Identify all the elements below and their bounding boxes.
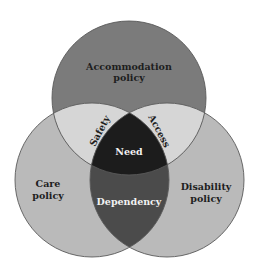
dependency-label: Dependency [97,196,162,207]
disability-label-line2: policy [190,193,222,204]
venn-diagram: Accommodation policy Care policy Disabil… [0,0,257,272]
accommodation-label-line2: policy [113,72,145,83]
care-label-line2: policy [32,190,64,201]
accommodation-label-line1: Accommodation [85,61,172,72]
need-label: Need [115,146,143,157]
care-label-line1: Care [36,178,61,189]
disability-label-line1: Disability [181,181,232,192]
